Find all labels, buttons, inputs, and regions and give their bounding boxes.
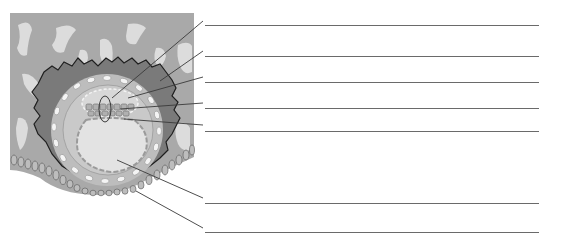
answer-line-4[interactable]: [205, 108, 539, 109]
answer-line-1[interactable]: [205, 25, 539, 26]
answer-line-7[interactable]: [205, 232, 539, 233]
histology-diagram: [0, 0, 569, 250]
answer-line-5[interactable]: [205, 131, 539, 132]
answer-line-3[interactable]: [205, 82, 539, 83]
answer-line-6[interactable]: [205, 203, 539, 204]
tissue-section: [10, 13, 195, 196]
lower-cavity: [77, 118, 147, 172]
answer-line-2[interactable]: [205, 56, 539, 57]
